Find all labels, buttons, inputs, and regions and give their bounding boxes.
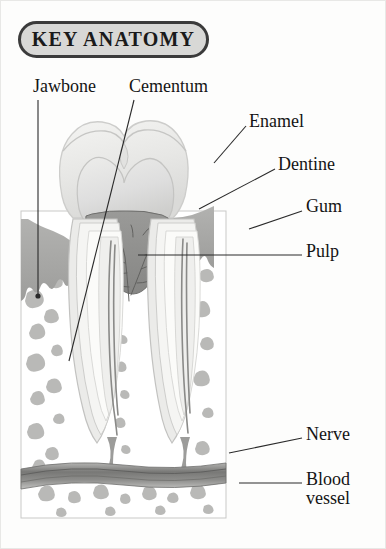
label-cementum: Cementum bbox=[129, 77, 208, 96]
leader-gum bbox=[249, 211, 302, 229]
label-gum: Gum bbox=[306, 197, 342, 216]
anatomy-page: KEY ANATOMY Jawbone Cementum Enamel Dent… bbox=[0, 0, 386, 549]
leader-dentine bbox=[199, 169, 275, 209]
leader-nerve bbox=[229, 438, 302, 453]
label-enamel: Enamel bbox=[249, 112, 304, 131]
label-pulp: Pulp bbox=[306, 242, 339, 261]
page-title: KEY ANATOMY bbox=[32, 28, 195, 51]
leader-enamel bbox=[214, 126, 246, 163]
label-jawbone: Jawbone bbox=[33, 77, 96, 96]
leader-jawbone-endpoint bbox=[35, 293, 40, 298]
label-dentine: Dentine bbox=[278, 155, 335, 174]
label-nerve: Nerve bbox=[306, 425, 350, 444]
label-blood-vessel: Blood vessel bbox=[306, 470, 378, 509]
key-anatomy-banner: KEY ANATOMY bbox=[18, 21, 209, 58]
